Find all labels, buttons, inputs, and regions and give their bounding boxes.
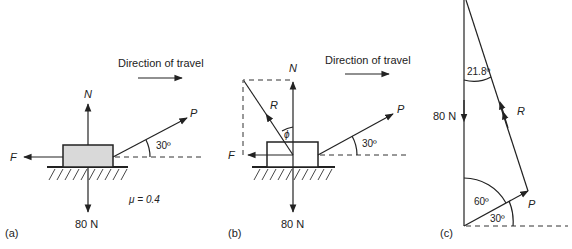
- weight-label: 80 N: [281, 218, 304, 230]
- resultant-force-line: [244, 81, 268, 117]
- weight-label: 80 N: [433, 110, 456, 122]
- panel-a: Direction of travel N 80 N F P 30º μ = 0…: [5, 57, 204, 239]
- friction-label: F: [228, 149, 236, 161]
- direction-of-travel-label: Direction of travel: [325, 54, 411, 66]
- top-angle-arc: [464, 77, 491, 81]
- angle-arc: [352, 136, 357, 155]
- angle-label: 30º: [156, 140, 171, 151]
- direction-of-travel-label: Direction of travel: [118, 57, 204, 69]
- normal-force-label: N: [84, 88, 92, 100]
- push-force-arrow: [318, 114, 393, 155]
- friction-coefficient-label: μ = 0.4: [128, 194, 160, 205]
- panel-b-tag: (b): [228, 227, 241, 239]
- bottom-angle-label: 60º: [474, 196, 489, 207]
- resultant-label: R: [517, 105, 525, 117]
- resultant-vector-line: [466, 0, 528, 191]
- panel-b: Direction of travel N 80 N F R ϕ: [228, 54, 411, 239]
- panel-c: 80 N P R 21.8º 60º 30º (c): [433, 0, 568, 239]
- push-force-label: P: [397, 103, 405, 115]
- force-diagram: Direction of travel N 80 N F P 30º μ = 0…: [0, 0, 572, 249]
- panel-c-tag: (c): [440, 227, 453, 239]
- weight-label: 80 N: [75, 218, 98, 230]
- top-angle-label: 21.8º: [467, 66, 490, 77]
- angle-label: 30º: [362, 138, 377, 149]
- block: [63, 145, 113, 167]
- phi-label: ϕ: [284, 129, 290, 140]
- angle-arc: [146, 140, 150, 157]
- push-force-label: P: [190, 107, 198, 119]
- base-angle-arc: [509, 201, 513, 226]
- base-angle-label: 30º: [490, 213, 505, 224]
- panel-a-tag: (a): [5, 227, 18, 239]
- push-label: P: [528, 198, 536, 210]
- resultant-label: R: [270, 99, 278, 111]
- normal-force-label: N: [289, 62, 297, 74]
- friction-label: F: [10, 151, 18, 163]
